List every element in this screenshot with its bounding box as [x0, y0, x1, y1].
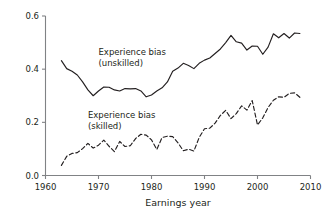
y-tick-label: 0.0 [25, 171, 39, 181]
x-tick-label: 1990 [194, 182, 216, 192]
x-axis-tick-labels: 196019701980199020002010 [35, 182, 322, 192]
skilled-label: Experience bias(skilled) [88, 110, 156, 131]
x-tick-label: 1980 [141, 182, 163, 192]
line-chart: 0.00.20.40.6 196019701980199020002010 Ex… [0, 0, 325, 212]
series-line-unskilled [61, 33, 300, 97]
data-series [61, 33, 300, 165]
y-axis-tick-labels: 0.00.20.40.6 [25, 11, 39, 181]
x-axis-title: Earnings year [145, 197, 211, 208]
chart-figure: 0.00.20.40.6 196019701980199020002010 Ex… [0, 0, 325, 212]
x-tick-label: 2010 [300, 182, 322, 192]
y-tick-label: 0.4 [25, 64, 39, 74]
x-tick-label: 1970 [88, 182, 110, 192]
y-tick-label: 0.2 [25, 117, 39, 127]
x-tick-label: 2000 [247, 182, 269, 192]
y-tick-label: 0.6 [25, 11, 39, 21]
unskilled-label: Experience bias(unskilled) [99, 47, 167, 68]
x-tick-label: 1960 [35, 182, 57, 192]
